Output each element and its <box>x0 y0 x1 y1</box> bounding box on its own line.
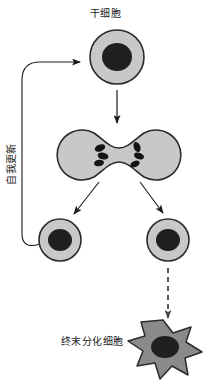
daughter-cell-right-nucleus <box>156 229 180 251</box>
dividing-cell-membrane <box>57 130 181 180</box>
node-daughter-cell-right <box>147 219 189 261</box>
terminal-cell-nucleus <box>151 336 179 358</box>
daughter-cell-left-nucleus <box>48 229 72 251</box>
edge-division-to-left-daughter <box>74 182 99 214</box>
label-self-renewal: 自我更新 <box>6 134 18 194</box>
node-daughter-cell-left <box>39 219 81 261</box>
node-terminal-differentiated-cell <box>128 320 202 379</box>
diagram-canvas <box>0 0 211 384</box>
stem-cell-nucleus <box>102 43 132 71</box>
label-terminal-differentiated-cell: 终末分化细胞 <box>61 336 123 348</box>
stem-cell-diagram: 干细胞 自我更新 终末分化细胞 <box>0 0 211 384</box>
node-dividing-cell <box>57 130 181 180</box>
node-stem-cell <box>90 30 144 84</box>
label-stem-cell: 干细胞 <box>0 8 211 20</box>
edge-division-to-right-daughter <box>140 182 163 213</box>
